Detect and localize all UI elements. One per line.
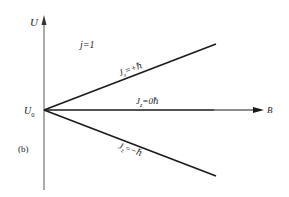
zeeman-splitting-diagram: U j=1 Jz=+ℏ B Jz=0ℏ Jz=−ℏ U0 (b) (0, 0, 289, 197)
level-label-minus-value: =−ℏ (123, 143, 143, 159)
origin-label: U0 (24, 105, 34, 118)
level-label-zero: Jz=0ℏ (136, 96, 159, 108)
b-axis-arrow-icon (253, 107, 264, 113)
u-axis-arrow-icon (42, 15, 47, 25)
origin-label-subscript: 0 (31, 111, 34, 118)
panel-label: (b) (18, 144, 29, 154)
quantum-number-label: j=1 (78, 39, 95, 50)
u-axis-label: U (30, 16, 39, 28)
level-label-minus: Jz=−ℏ (117, 140, 144, 159)
svg-text:Jz=−ℏ: Jz=−ℏ (117, 140, 144, 159)
b-axis-label: B (267, 105, 273, 115)
level-label-zero-value: =0ℏ (142, 96, 158, 106)
level-line-plus (44, 44, 216, 110)
